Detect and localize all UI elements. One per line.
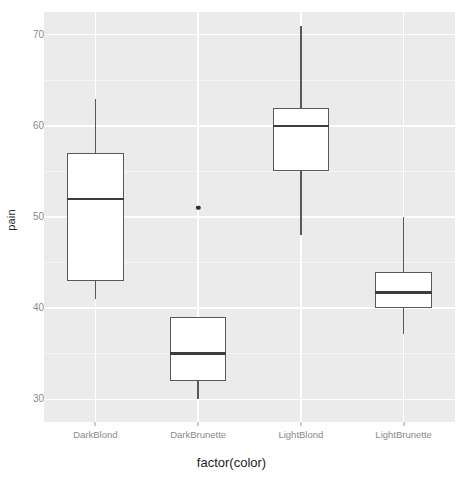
y-tick-label: 60: [18, 121, 44, 131]
x-tick-label-darkblond: DarkBlond: [73, 429, 117, 440]
whisker-upper: [300, 26, 301, 108]
gridline-minor-horizontal: [44, 353, 455, 354]
x-axis: DarkBlondDarkBrunetteLightBlondLightBrun…: [44, 422, 459, 452]
gridline-minor-horizontal: [44, 80, 455, 81]
iqr-box: [375, 272, 432, 308]
x-tick-mark: [95, 422, 96, 426]
gridline-major-horizontal: [44, 34, 455, 35]
whisker-upper: [95, 99, 96, 154]
boxplot-figure: pain 3040506070 DarkBlondDarkBrunetteLig…: [0, 0, 463, 484]
whisker-lower: [300, 171, 301, 235]
gridline-major-horizontal: [44, 399, 455, 400]
x-tick-mark: [198, 422, 199, 426]
x-axis-title: factor(color): [0, 455, 463, 470]
outlier-point: [196, 206, 200, 210]
whisker-upper: [403, 217, 404, 272]
plot-panel: [44, 12, 455, 422]
median-line: [170, 352, 227, 354]
whisker-lower: [95, 281, 96, 299]
x-tick-label-lightbrunette: LightBrunette: [375, 429, 432, 440]
gridline-major-horizontal: [44, 125, 455, 126]
y-tick-label: 30: [18, 394, 44, 404]
x-axis-title-label: factor(color): [197, 455, 266, 470]
iqr-box: [67, 153, 124, 281]
y-tick-label: 50: [18, 212, 44, 222]
x-tick-label-lightblond: LightBlond: [278, 429, 323, 440]
x-tick-label-darkbrunette: DarkBrunette: [170, 429, 226, 440]
whisker-lower: [403, 308, 404, 334]
median-line: [375, 291, 432, 293]
iqr-box: [170, 317, 227, 381]
y-tick-label: 40: [18, 303, 44, 313]
y-tick-label: 70: [18, 30, 44, 40]
x-tick-mark: [403, 422, 404, 426]
x-tick-mark: [300, 422, 301, 426]
median-line: [273, 125, 330, 127]
iqr-box: [273, 108, 330, 172]
y-axis: 3040506070: [0, 0, 44, 440]
median-line: [67, 198, 124, 200]
whisker-lower: [197, 381, 198, 399]
